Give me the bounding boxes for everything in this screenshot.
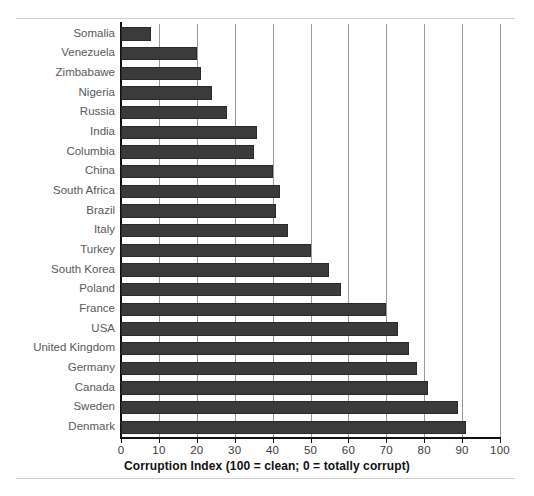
bar-poland [121, 283, 341, 296]
bar-row: United Kingdom [121, 339, 500, 359]
bar-china [121, 165, 273, 178]
tick-0 [121, 438, 122, 443]
bar-venezuela [121, 47, 197, 60]
bar-united-kingdom [121, 342, 409, 355]
bar-turkey [121, 244, 311, 257]
bar-row: USA [121, 319, 500, 339]
tick-label-50: 50 [291, 444, 331, 456]
tick-80 [424, 438, 425, 443]
bar-denmark [121, 421, 466, 434]
bar-france [121, 303, 386, 316]
tick-label-0: 0 [101, 444, 141, 456]
category-label-south-africa: South Africa [53, 183, 115, 198]
category-label-zimbabawe: Zimbabawe [56, 65, 115, 80]
bar-row: South Korea [121, 260, 500, 280]
bar-india [121, 126, 257, 139]
bar-row: Italy [121, 221, 500, 241]
category-label-poland: Poland [79, 281, 115, 296]
bar-zimbabawe [121, 67, 201, 80]
bar-somalia [121, 27, 151, 40]
category-label-usa: USA [91, 321, 115, 336]
category-label-france: France [79, 301, 115, 316]
tick-label-30: 30 [215, 444, 255, 456]
bar-row: France [121, 299, 500, 319]
bar-row: Russia [121, 103, 500, 123]
category-label-denmark: Denmark [68, 419, 115, 434]
bar-south-africa [121, 185, 280, 198]
category-label-canada: Canada [75, 380, 115, 395]
tick-label-70: 70 [366, 444, 406, 456]
category-label-sweden: Sweden [73, 399, 115, 414]
category-label-venezuela: Venezuela [61, 45, 115, 60]
bar-brazil [121, 204, 276, 217]
bar-russia [121, 106, 227, 119]
bar-row: Canada [121, 378, 500, 398]
bar-sweden [121, 401, 458, 414]
bar-italy [121, 224, 288, 237]
bar-row: China [121, 162, 500, 182]
bar-row: Somalia [121, 24, 500, 44]
tick-20 [197, 438, 198, 443]
tick-10 [159, 438, 160, 443]
bar-row: Venezuela [121, 44, 500, 64]
gridline-100 [500, 24, 501, 437]
tick-100 [500, 438, 501, 443]
bar-row: Columbia [121, 142, 500, 162]
tick-40 [273, 438, 274, 443]
bar-row: Poland [121, 280, 500, 300]
bar-row: India [121, 122, 500, 142]
tick-60 [348, 438, 349, 443]
category-label-united-kingdom: United Kingdom [33, 340, 115, 355]
bar-row: Denmark [121, 417, 500, 437]
category-label-italy: Italy [94, 222, 115, 237]
bar-south-korea [121, 263, 329, 276]
bar-row: Germany [121, 358, 500, 378]
tick-50 [311, 438, 312, 443]
tick-30 [235, 438, 236, 443]
bar-row: South Africa [121, 181, 500, 201]
category-label-india: India [90, 124, 115, 139]
tick-label-10: 10 [139, 444, 179, 456]
corruption-index-bar-chart: 0102030405060708090100 SomaliaVenezuelaZ… [0, 0, 534, 496]
tick-label-80: 80 [404, 444, 444, 456]
chart-page: 0102030405060708090100 SomaliaVenezuelaZ… [0, 0, 534, 496]
bar-row: Turkey [121, 240, 500, 260]
category-label-brazil: Brazil [86, 203, 115, 218]
bar-row: Zimbabawe [121, 63, 500, 83]
category-label-nigeria: Nigeria [79, 85, 115, 100]
bar-canada [121, 381, 428, 394]
tick-label-60: 60 [328, 444, 368, 456]
bar-columbia [121, 145, 254, 158]
tick-70 [386, 438, 387, 443]
category-label-germany: Germany [68, 360, 115, 375]
x-axis-title: Corruption Index (100 = clean; 0 = total… [0, 459, 534, 473]
category-label-china: China [85, 163, 115, 178]
tick-label-20: 20 [177, 444, 217, 456]
category-label-turkey: Turkey [80, 242, 115, 257]
bar-germany [121, 362, 417, 375]
category-label-russia: Russia [80, 104, 115, 119]
category-label-columbia: Columbia [66, 144, 115, 159]
category-label-somalia: Somalia [73, 26, 115, 41]
bar-row: Nigeria [121, 83, 500, 103]
tick-label-90: 90 [442, 444, 482, 456]
tick-90 [462, 438, 463, 443]
tick-label-100: 100 [480, 444, 520, 456]
bar-usa [121, 322, 398, 335]
bar-nigeria [121, 86, 212, 99]
bar-row: Sweden [121, 398, 500, 418]
tick-label-40: 40 [253, 444, 293, 456]
plot-area: SomaliaVenezuelaZimbabaweNigeriaRussiaIn… [121, 24, 500, 437]
bar-row: Brazil [121, 201, 500, 221]
category-label-south-korea: South Korea [51, 262, 115, 277]
